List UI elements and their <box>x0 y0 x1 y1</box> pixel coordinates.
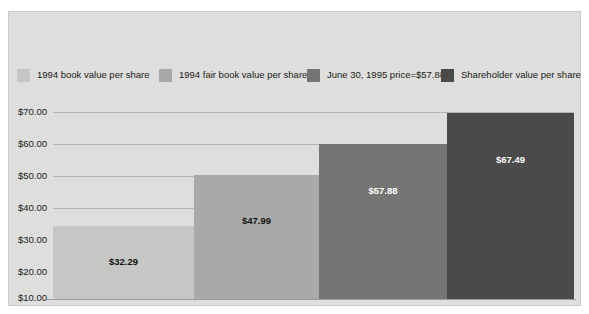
plot-area: $70.00 $60.00 $50.00 $40.00 $30.00 $20.0… <box>53 101 574 299</box>
ytick-label-20: $20.00 <box>18 267 47 277</box>
legend-item-june-1995-price: June 30, 1995 price=$57.88 <box>307 64 445 86</box>
bar-series: $32.29 $47.99 $57.88 $67.49 <box>53 101 574 299</box>
bar-june-1995-price[interactable]: $57.88 <box>319 144 447 299</box>
legend-label-1994-book-value: 1994 book value per share <box>37 70 150 80</box>
legend-label-shareholder-value: Shareholder value per share <box>461 70 581 80</box>
legend-swatch-1994-fair-book-value <box>159 69 172 82</box>
ytick-label-40: $40.00 <box>18 203 47 213</box>
ytick-label-60: $60.00 <box>18 139 47 149</box>
ytick-label-10: $10.00 <box>18 293 47 303</box>
bar-1994-fair-book-value[interactable]: $47.99 <box>194 175 319 299</box>
bar-value-label-1994-book-value: $32.29 <box>53 257 194 267</box>
legend-swatch-1994-book-value <box>17 69 30 82</box>
x-axis-line <box>47 299 576 300</box>
bar-value-label-june-1995-price: $57.88 <box>319 186 447 196</box>
legend-item-1994-book-value: 1994 book value per share <box>17 64 150 86</box>
ytick-label-30: $30.00 <box>18 235 47 245</box>
ytick-label-70: $70.00 <box>18 107 47 117</box>
ytick-label-50: $50.00 <box>18 171 47 181</box>
bar-value-label-1994-fair-book-value: $47.99 <box>194 216 319 226</box>
chart-panel: 1994 book value per share 1994 fair book… <box>8 11 581 306</box>
legend-item-shareholder-value: Shareholder value per share <box>441 64 581 86</box>
bar-1994-book-value[interactable]: $32.29 <box>53 226 194 299</box>
chart-legend: 1994 book value per share 1994 fair book… <box>9 64 582 86</box>
legend-swatch-june-1995-price <box>307 69 320 82</box>
legend-label-1994-fair-book-value: 1994 fair book value per share <box>179 70 307 80</box>
legend-label-june-1995-price: June 30, 1995 price=$57.88 <box>327 70 445 80</box>
bar-value-label-shareholder-value: $67.49 <box>447 155 574 165</box>
legend-item-1994-fair-book-value: 1994 fair book value per share <box>159 64 307 86</box>
bar-shareholder-value[interactable]: $67.49 <box>447 113 574 299</box>
legend-swatch-shareholder-value <box>441 69 454 82</box>
